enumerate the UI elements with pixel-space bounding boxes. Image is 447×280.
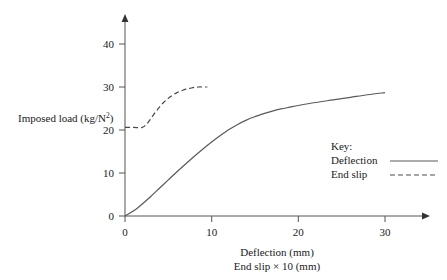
- y-axis-title-close: ): [110, 112, 114, 125]
- y-tick-label-30: 30: [103, 81, 115, 93]
- y-axis-title: Imposed load (kg/N2): [18, 111, 114, 125]
- imposed-load-vs-deflection-chart: 0 10 20 30 40 0 10 20 30 Imposed load (k…: [0, 0, 447, 280]
- x-tick-label-10: 10: [206, 226, 218, 238]
- x-axis-title-line1: Deflection (mm): [240, 246, 314, 259]
- x-tick-label-30: 30: [380, 226, 392, 238]
- y-axis-arrow-icon: [122, 14, 129, 22]
- y-tick-label-20: 20: [103, 124, 115, 136]
- legend-label-end-slip: End slip: [331, 168, 368, 180]
- series-end-slip-line: [125, 87, 207, 128]
- y-tick-label-0: 0: [109, 210, 115, 222]
- y-axis-title-main: Imposed load (kg/N: [18, 112, 106, 125]
- x-axis-title-line2: End slip × 10 (mm): [234, 260, 321, 273]
- chart-container: 0 10 20 30 40 0 10 20 30 Imposed load (k…: [0, 0, 447, 280]
- x-tick-label-0: 0: [122, 226, 128, 238]
- x-axis-ticks: [125, 216, 385, 222]
- legend-label-deflection: Deflection: [331, 154, 378, 166]
- legend-title: Key:: [331, 140, 352, 152]
- x-tick-label-20: 20: [293, 226, 305, 238]
- y-axis-ticks: [119, 44, 125, 216]
- y-tick-label-10: 10: [103, 167, 115, 179]
- y-tick-label-40: 40: [103, 38, 115, 50]
- x-axis-arrow-icon: [422, 213, 430, 220]
- legend: Key: Deflection End slip: [331, 140, 438, 180]
